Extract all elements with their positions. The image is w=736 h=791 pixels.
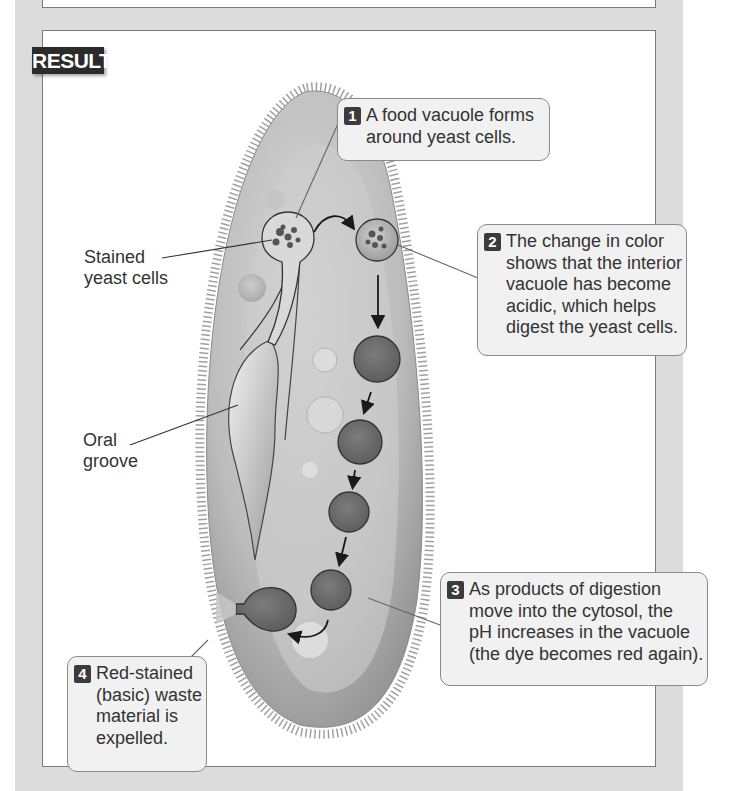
label-oral-groove: Oral groove bbox=[83, 430, 138, 472]
vacuole-digesting-2 bbox=[338, 420, 382, 464]
vacuole-digesting-1 bbox=[354, 336, 400, 382]
step-number-1: 1 bbox=[344, 107, 361, 125]
step-number-2: 2 bbox=[484, 233, 501, 251]
vacuole-acidic bbox=[356, 219, 398, 261]
callout-4: 4 Red-stained (basic) waste material is … bbox=[67, 656, 207, 772]
callout-3: 3 As products of digestion move into the… bbox=[440, 572, 708, 686]
step-number-4: 4 bbox=[74, 665, 91, 683]
step-number-3: 3 bbox=[447, 581, 464, 599]
callout-1: 1 A food vacuole forms around yeast cell… bbox=[337, 98, 550, 161]
label-stained-yeast: Stained yeast cells bbox=[84, 247, 168, 289]
callout-2: 2 The change in color shows that the int… bbox=[477, 224, 687, 356]
vacuole-basic bbox=[311, 570, 351, 610]
vacuole-digesting-3 bbox=[329, 492, 369, 532]
